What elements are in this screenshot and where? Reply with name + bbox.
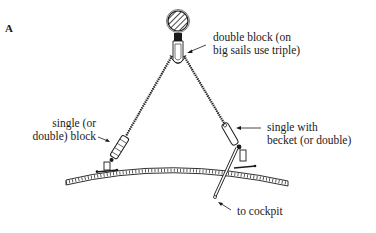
left-block-label: single (or double) block (26, 117, 96, 143)
right-block-label: single with becket (or double) (267, 121, 351, 147)
figure-letter: A (5, 22, 13, 34)
left-block-label-line-1: single (or (26, 117, 96, 130)
deck-curve (66, 168, 288, 186)
top-block-label-line-1: double block (on (213, 31, 300, 44)
left-rope (126, 56, 172, 136)
left-block-icon (96, 135, 130, 173)
top-block-label-line-2: big sails use triple) (213, 44, 300, 57)
leader-lines (98, 45, 261, 210)
left-block-label-line-2: double) block (26, 130, 96, 143)
diagram-stage: A double block (on big sails use triple)… (0, 0, 376, 233)
tail-label: to cockpit (237, 205, 283, 218)
top-block-label: double block (on big sails use triple) (213, 31, 300, 57)
top-block-icon (170, 33, 186, 64)
right-block-label-line-1: single with (267, 121, 351, 134)
right-rope (184, 56, 224, 123)
tail-label-line-1: to cockpit (237, 205, 283, 218)
tail-line (214, 148, 238, 199)
right-block-label-line-2: becket (or double) (267, 134, 351, 147)
boom-icon (167, 10, 190, 33)
